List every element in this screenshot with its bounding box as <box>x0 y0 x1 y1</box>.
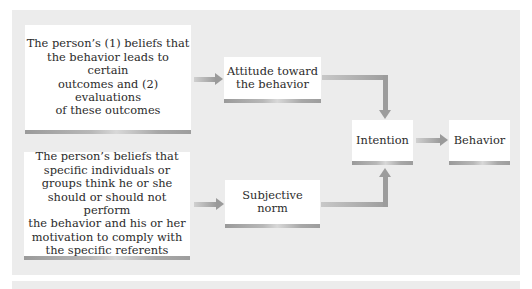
normative-beliefs-box: The person’s beliefs that specific indiv… <box>24 152 190 260</box>
text-line: The person’s (1) beliefs that <box>25 37 191 50</box>
box-shadow-bar <box>24 256 190 260</box>
connector-norm-vertical <box>383 176 388 207</box>
behavior-box: Behavior <box>449 120 510 165</box>
intention-text: Intention <box>356 134 409 151</box>
text-line: Subjective <box>242 189 302 202</box>
connector-norm-horizontal <box>321 202 388 207</box>
subjective-norm-text: Subjective norm <box>242 189 302 220</box>
arrow-beliefs-to-attitude-icon <box>194 77 216 82</box>
connector-attitude-vertical <box>383 75 388 112</box>
arrow-normative-to-norm-icon <box>194 202 217 207</box>
intention-box: Intention <box>352 120 413 165</box>
arrowhead-up-icon <box>379 168 391 177</box>
text-line: Attitude toward <box>227 65 318 78</box>
attitude-box: Attitude toward the behavior <box>224 57 321 103</box>
text-line: specific individuals or <box>24 164 190 177</box>
beliefs-outcomes-text: The person’s (1) beliefs that the behavi… <box>25 37 191 121</box>
text-line: of these outcomes <box>25 104 191 117</box>
box-shadow-bar <box>224 99 321 103</box>
bottom-rule <box>12 281 520 289</box>
connector-attitude-horizontal <box>322 75 388 80</box>
text-line: outcomes and (2) evaluations <box>25 78 191 105</box>
text-line: norm <box>242 202 302 215</box>
text-line: The person’s beliefs that <box>24 150 190 163</box>
box-shadow-bar <box>25 130 191 134</box>
text-line: the behavior leads to certain <box>25 51 191 78</box>
arrow-intention-to-behavior-icon <box>416 138 441 143</box>
subjective-norm-box: Subjective norm <box>225 180 320 228</box>
text-line: should or should not perform <box>24 191 190 218</box>
text-line: motivation to comply with <box>24 231 190 244</box>
attitude-text: Attitude toward the behavior <box>227 65 318 96</box>
normative-beliefs-text: The person’s beliefs that specific indiv… <box>24 150 190 261</box>
arrowhead-down-icon <box>379 110 391 119</box>
text-line: the behavior <box>227 78 318 91</box>
box-shadow-bar <box>449 161 510 165</box>
box-shadow-bar <box>225 224 320 228</box>
text-line: the behavior and his or her <box>24 217 190 230</box>
text-line: groups think he or she <box>24 177 190 190</box>
behavior-text: Behavior <box>454 134 506 151</box>
box-shadow-bar <box>352 161 413 165</box>
beliefs-outcomes-box: The person’s (1) beliefs that the behavi… <box>25 25 191 134</box>
